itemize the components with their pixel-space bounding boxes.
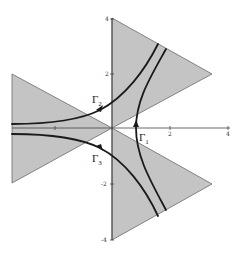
x-tick-label-4: 4 [226,130,230,137]
upper-wedge [112,18,212,128]
left-wedge [12,74,112,183]
y-tick-label-4: 4 [105,15,109,22]
y-tick-label-neg2: -2 [101,180,107,187]
lower-wedge [112,128,212,240]
label-gamma3: Γ3 [92,152,102,167]
x-tick-label-2: 2 [168,130,172,137]
label-gamma2: Γ2 [92,93,102,108]
arrow-gamma1-icon [133,120,139,127]
y-tick-label-2: 2 [105,70,109,77]
y-tick-label-neg4: -4 [101,236,107,243]
contour-diagram: 2 4 4 2 -2 -4 Γ2 Γ3 Γ1 [0,0,242,254]
